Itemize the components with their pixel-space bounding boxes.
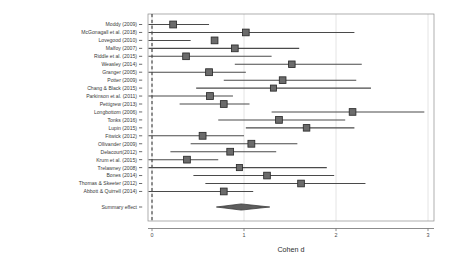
study-label: McGonagall et al. (2018) — [81, 29, 137, 35]
study-label: Trelawney (2008) — [98, 165, 138, 171]
effect-size-marker — [183, 53, 190, 60]
effect-size-marker — [270, 85, 276, 91]
study-label: Longbottom (2006) — [94, 109, 137, 115]
study-label: Pettigrew (2013) — [100, 101, 138, 107]
x-axis-tick-label: 2 — [335, 232, 338, 238]
study-label: Parkinson et al. (2011) — [86, 93, 137, 99]
x-axis-tick-label: 1 — [243, 232, 246, 238]
effect-size-marker — [289, 61, 296, 68]
effect-size-marker — [243, 29, 250, 36]
study-label: Ollivander (2009) — [98, 141, 137, 147]
study-label: Riddle et al. (2015) — [94, 53, 137, 59]
effect-size-marker — [206, 69, 213, 76]
study-label: Chang & Black (2015) — [87, 85, 137, 91]
study-label: Granger (2005) — [102, 69, 137, 75]
effect-size-marker — [207, 93, 214, 100]
effect-size-marker — [199, 132, 206, 139]
chart-background — [0, 0, 454, 261]
study-label: Delacourt(2012) — [100, 149, 137, 155]
effect-size-marker — [184, 156, 191, 163]
study-label: Lupin (2015) — [108, 125, 137, 131]
study-label: Tonks (2016) — [108, 117, 138, 123]
study-label: Fitwick (2012) — [105, 133, 137, 139]
effect-size-marker — [279, 77, 286, 84]
study-label: Moddy (2009) — [106, 21, 138, 27]
effect-size-marker — [170, 21, 177, 28]
study-label: Krum et al. (2015) — [96, 157, 137, 163]
effect-size-marker — [248, 140, 255, 147]
effect-size-marker — [349, 109, 356, 116]
study-label: Thomas & Skeeter (2012) — [79, 180, 138, 186]
effect-size-marker — [220, 101, 227, 108]
x-axis-tick-label: 0 — [151, 232, 154, 238]
study-label: Abbott & Quirrell (2014) — [83, 188, 137, 194]
effect-size-marker — [231, 45, 238, 52]
effect-size-marker — [276, 117, 283, 124]
study-label: Weasley (2014) — [101, 61, 137, 67]
effect-size-marker — [211, 37, 218, 44]
study-label: Bones (2014) — [106, 172, 137, 178]
effect-size-marker — [220, 188, 227, 195]
effect-size-marker — [236, 165, 242, 171]
forest-plot-chart: Moddy (2009)McGonagall et al. (2018)Love… — [0, 0, 454, 261]
x-axis-title: Cohen d — [277, 245, 304, 254]
summary-effect-label: Summary effect — [101, 204, 137, 210]
study-label: Potter (2009) — [107, 77, 137, 83]
effect-size-marker — [227, 148, 234, 155]
study-label: Lovegood (2010) — [98, 37, 137, 43]
effect-size-marker — [303, 125, 310, 132]
x-axis-tick-label: 3 — [427, 232, 430, 238]
effect-size-marker — [264, 172, 271, 179]
effect-size-marker — [298, 180, 305, 187]
study-label: Malfoy (2007) — [106, 45, 137, 51]
